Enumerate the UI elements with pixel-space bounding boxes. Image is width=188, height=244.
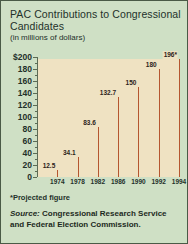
y-tick-minor — [35, 147, 37, 148]
y-tick-minor — [35, 111, 37, 112]
y-tick-minor — [35, 75, 37, 76]
y-tick — [33, 165, 37, 166]
y-tick — [33, 93, 37, 94]
x-tick-label: 1992 — [151, 178, 165, 185]
page-title: PAC Contributions to Congressional Candi… — [10, 9, 181, 32]
y-tick-minor — [35, 63, 37, 64]
y-tick-minor — [35, 171, 37, 172]
source-label: Source: — [10, 209, 40, 218]
x-tick-label: 1982 — [91, 178, 105, 185]
chart-card: PAC Contributions to Congressional Candi… — [0, 0, 188, 244]
x-tick-label: 1994 — [172, 178, 186, 185]
y-tick-minor — [35, 99, 37, 100]
y-tick — [33, 141, 37, 142]
bar-value-label: 132.7 — [99, 89, 117, 97]
y-tick-minor — [35, 135, 37, 136]
y-tick-label: 80 — [23, 124, 32, 134]
y-tick-label: 140 — [18, 88, 32, 98]
bar-value-label: 83.6 — [82, 119, 97, 127]
x-tick-label: 1978 — [70, 178, 84, 185]
y-tick-label: 180 — [18, 64, 32, 74]
y-tick — [33, 177, 37, 178]
y-tick — [33, 117, 37, 118]
y-tick-label: 160 — [18, 76, 32, 86]
y-tick-minor — [35, 87, 37, 88]
bar-value-label: 180 — [145, 61, 158, 69]
y-tick-label: 60 — [23, 136, 32, 146]
bar — [38, 170, 58, 178]
x-tick-label: 1990 — [131, 178, 145, 185]
chart-header: PAC Contributions to Congressional Candi… — [10, 9, 181, 43]
y-tick-label: $200 — [13, 52, 32, 62]
bar-value-label: 12.5 — [42, 162, 57, 170]
y-tick-minor — [35, 123, 37, 124]
bar-value-label: 34.1 — [62, 149, 77, 157]
y-tick — [33, 69, 37, 70]
y-tick-label: 20 — [23, 160, 32, 170]
bar-value-label: 196* — [163, 51, 178, 59]
source-line: Source: Congressional Research Service a… — [10, 209, 181, 230]
y-tick — [33, 105, 37, 106]
y-tick — [33, 153, 37, 154]
chart-subtitle: (in millions of dollars) — [10, 33, 181, 43]
y-tick-label: 100 — [18, 112, 32, 122]
y-tick-minor — [35, 159, 37, 160]
y-tick-label: 120 — [18, 100, 32, 110]
x-tick-label: 1974 — [50, 178, 64, 185]
bar-value-label: 150 — [125, 79, 138, 87]
y-tick-label: 0 — [27, 172, 32, 182]
y-tick — [33, 57, 37, 58]
y-tick-label: 40 — [23, 148, 32, 158]
bar-chart-plot: 020406080100120140160180$200 12.534.183.… — [37, 57, 179, 177]
y-tick — [33, 81, 37, 82]
projection-footnote: *Projected figure — [10, 193, 70, 202]
x-tick-label: 1986 — [111, 178, 125, 185]
y-tick — [33, 129, 37, 130]
